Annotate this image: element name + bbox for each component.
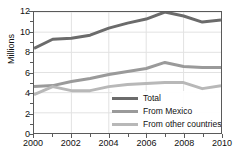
legend-item-2: From other countries	[112, 118, 222, 131]
x-tick-mark	[109, 134, 110, 138]
legend-swatch-icon	[112, 97, 138, 100]
legend-item-1: From Mexico	[112, 105, 222, 118]
x-axis-tick-labels: 200020022004200620082010	[33, 138, 222, 152]
series-line-0	[34, 12, 221, 48]
y-tick-label: 2	[0, 109, 30, 119]
chart-legend: TotalFrom MexicoFrom other countries	[112, 91, 222, 132]
x-tick-mark	[146, 134, 147, 138]
x-tick-mark	[71, 134, 72, 138]
x-tick-mark	[184, 134, 185, 138]
x-tick-mark-minor	[90, 134, 91, 137]
x-tick-mark-minor	[128, 134, 129, 137]
legend-label: From other countries	[143, 120, 221, 129]
immigrant-population-line-chart: Millions 024681012 TotalFrom MexicoFrom …	[0, 0, 235, 160]
x-tick-mark	[222, 134, 223, 138]
legend-item-0: Total	[112, 92, 222, 105]
legend-swatch-icon	[112, 110, 138, 113]
y-tick-label: 12	[0, 6, 30, 16]
x-tick-label: 2004	[99, 138, 119, 148]
y-axis-tick-labels: 024681012	[0, 11, 30, 134]
series-line-1	[34, 62, 221, 86]
y-tick-label: 8	[0, 47, 30, 57]
x-tick-mark-minor	[203, 134, 204, 137]
legend-label: Total	[143, 94, 161, 103]
x-tick-label: 2000	[23, 138, 43, 148]
legend-swatch-icon	[112, 123, 138, 126]
x-tick-mark-minor	[52, 134, 53, 137]
y-tick-label: 4	[0, 88, 30, 98]
x-tick-label: 2002	[61, 138, 81, 148]
x-tick-label: 2010	[212, 138, 232, 148]
x-tick-mark-minor	[165, 134, 166, 137]
x-tick-label: 2008	[174, 138, 194, 148]
y-tick-label: 10	[0, 27, 30, 37]
plot-area: TotalFrom MexicoFrom other countries	[33, 11, 222, 134]
y-tick-label: 6	[0, 68, 30, 78]
legend-label: From Mexico	[143, 107, 192, 116]
x-tick-label: 2006	[136, 138, 156, 148]
x-tick-mark	[33, 134, 34, 138]
